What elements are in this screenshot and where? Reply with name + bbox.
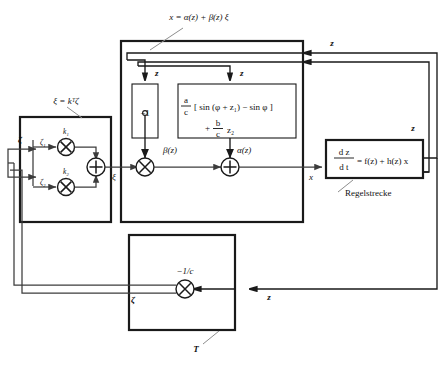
xi-signal-label: ξ <box>112 172 116 182</box>
zeta2-label: ζ₂ <box>40 178 46 187</box>
alpha-output-label: α(z) <box>237 145 251 155</box>
z-into-transform-label: z <box>266 292 271 302</box>
z-right-bus-label: z <box>410 123 415 133</box>
z-into-beta-wire <box>127 60 145 78</box>
k2-label: k₂ <box>63 167 69 176</box>
z-bus-upper <box>127 53 303 60</box>
beta-value-label: −1 <box>140 108 150 118</box>
transform-gain-label: −1/c <box>176 266 193 276</box>
alpha-frac1-numerator: a <box>184 95 188 105</box>
zeta-return-wire-lower <box>10 170 176 293</box>
linearization-block-border <box>121 41 303 222</box>
zeta1-label: ζ₁ <box>40 138 46 147</box>
z-into-alpha-wire <box>138 66 230 78</box>
plant-caption: Regelstrecke <box>345 188 391 198</box>
transform-label-leader <box>203 331 219 344</box>
z-label-alpha-branch: z <box>239 68 244 78</box>
linearization-law-label: x = α(z) + β(z) ξ <box>168 12 229 22</box>
transform-caption: T <box>193 344 199 354</box>
linearization-label-leader <box>150 28 183 50</box>
k1-label: k₁ <box>63 127 69 136</box>
k2-to-summer-wire <box>75 175 97 187</box>
plant-rhs: = f(z) + h(z) x <box>357 156 409 166</box>
z-top-feedback-label: z <box>329 38 334 48</box>
diagram-canvas: x = α(z) + β(z) ξ ξ = kᵀζ ζ₁ ζ₂ k₁ k₂ ζ … <box>0 0 448 365</box>
zeta-out-label: ζ <box>131 295 136 305</box>
plant-lhs-numerator: d z <box>339 147 350 157</box>
beta-output-label: β(z) <box>162 145 177 155</box>
zeta-entry-wire-upper <box>8 149 36 163</box>
alpha-frac1-denominator: c <box>184 107 188 117</box>
zeta-return-wire-upper <box>14 163 176 285</box>
alpha-expression-line1: [ sin (φ + z₁) − sin φ ] <box>194 102 273 112</box>
alpha-frac2-numerator: b <box>216 118 221 128</box>
plant-lhs-denominator: d t <box>339 162 349 172</box>
alpha-expression-line2: z₂ <box>227 125 234 135</box>
gain-law-label: ξ = kᵀζ <box>53 96 80 106</box>
alpha-frac2-denominator: c <box>216 129 220 139</box>
block-diagram-figure: x = α(z) + β(z) ξ ξ = kᵀζ ζ₁ ζ₂ k₁ k₂ ζ … <box>0 0 448 365</box>
zeta-input-label: ζ <box>18 135 23 145</box>
alpha-expression-plus: + <box>205 123 210 133</box>
z-label-beta-branch: z <box>154 68 159 78</box>
x-signal-label: x <box>308 172 313 182</box>
